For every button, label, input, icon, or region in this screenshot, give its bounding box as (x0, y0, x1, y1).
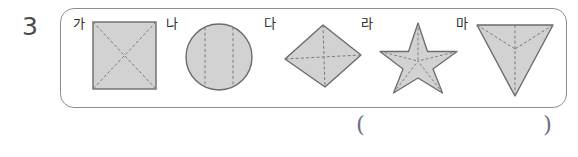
diamond-shape (283, 23, 363, 89)
diamond-shape-svg (283, 23, 363, 89)
circle-shape (183, 22, 255, 92)
inverted-triangle-shape (474, 22, 556, 98)
shape-cell-3: 다 (256, 9, 361, 109)
shape-label-da: 다 (264, 17, 276, 30)
star-shape-svg (379, 21, 457, 95)
square-shape-svg (91, 20, 159, 92)
answer-close-paren: ) (543, 112, 552, 137)
star-outline (380, 23, 457, 93)
shape-cell-1: 가 (69, 9, 161, 109)
question-number: 3 (22, 14, 38, 39)
square-shape (91, 20, 159, 92)
shape-cell-4: 라 (361, 9, 456, 109)
worksheet-problem: 3 가 나 (0, 0, 578, 157)
shape-cell-5: 마 (456, 9, 566, 109)
shapes-container-box: 가 나 다 (60, 8, 567, 108)
shape-label-ra: 라 (361, 17, 373, 30)
shape-label-ga: 가 (73, 17, 85, 30)
shape-cell-2: 나 (161, 9, 256, 109)
answer-open-paren: ( (356, 112, 365, 137)
shape-label-na: 나 (166, 17, 178, 30)
answer-blank-row: ( ) (0, 112, 578, 157)
shape-label-ma: 마 (456, 17, 468, 30)
inverted-triangle-shape-svg (474, 22, 556, 98)
circle-shape-svg (183, 22, 255, 92)
circle-outline (186, 24, 252, 90)
star-shape (379, 21, 457, 95)
